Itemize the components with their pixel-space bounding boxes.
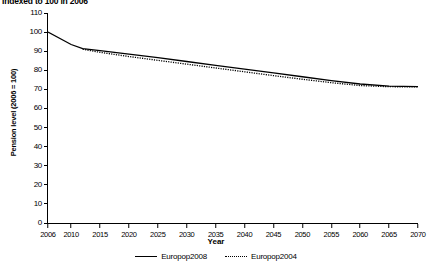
x-axis-tick-mark — [418, 224, 419, 228]
x-axis-tick-mark — [331, 224, 332, 228]
series-line-europop2008 — [48, 32, 418, 87]
x-axis-title: Year — [0, 237, 432, 246]
x-axis-tick-mark — [157, 224, 158, 228]
y-axis-tick-label: 70 — [34, 85, 42, 93]
y-axis-tick: 90 — [34, 47, 47, 55]
y-axis-tick-label: 20 — [34, 181, 42, 189]
y-axis-tick: 30 — [34, 162, 47, 170]
x-axis-tick-mark — [244, 224, 245, 228]
series-lines — [48, 13, 418, 223]
x-axis-tick-mark — [71, 224, 72, 228]
y-axis-tick: 60 — [34, 104, 47, 112]
x-axis-tick-mark — [128, 224, 129, 228]
x-axis-tick-mark — [273, 224, 274, 228]
y-axis-tick-label: 30 — [34, 162, 42, 170]
x-axis-tick-mark — [100, 224, 101, 228]
x-axis-tick-mark — [360, 224, 361, 228]
x-axis-tick-mark — [215, 224, 216, 228]
legend-label: Europop2008 — [161, 252, 207, 261]
y-axis-tick: 20 — [34, 181, 47, 189]
y-axis-tick-label: 40 — [34, 143, 42, 151]
legend-swatch-icon — [135, 254, 157, 259]
y-axis-tick-label: 100 — [30, 28, 42, 36]
y-axis-tick-label: 90 — [34, 47, 42, 55]
y-axis-tick-label: 110 — [30, 9, 42, 17]
legend-item-europop2008[interactable]: Europop2008 — [135, 252, 207, 261]
y-axis-tick: 50 — [34, 124, 47, 132]
plot-area — [48, 13, 418, 223]
x-axis-tick-mark — [302, 224, 303, 228]
x-axis-tick-mark — [186, 224, 187, 228]
y-axis-tick-label: 80 — [34, 66, 42, 74]
x-axis-tick-mark — [48, 224, 49, 228]
legend-swatch-icon — [225, 254, 247, 259]
y-axis-tick-label: 60 — [34, 104, 42, 112]
y-axis-tick: 80 — [34, 66, 47, 74]
y-axis-title: Pension level (2006 = 100) — [9, 48, 18, 178]
y-axis-tick: 10 — [34, 200, 47, 208]
y-axis-tick: 70 — [34, 85, 47, 93]
legend-label: Europop2004 — [251, 252, 297, 261]
y-axis-tick: 100 — [30, 28, 47, 36]
y-axis-tick: 110 — [30, 9, 47, 17]
y-axis-tick-label: 50 — [34, 124, 42, 132]
x-axis-tick-mark — [389, 224, 390, 228]
chart-container: Indexed to 100 in 2006 11010090807060504… — [0, 0, 432, 269]
chart-legend: Europop2008Europop2004 — [0, 252, 432, 261]
legend-item-europop2004[interactable]: Europop2004 — [225, 252, 297, 261]
y-axis-tick-label: 10 — [34, 200, 42, 208]
y-axis-tick: 40 — [34, 143, 47, 151]
